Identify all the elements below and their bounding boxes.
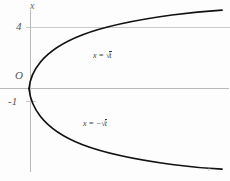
plot-canvas: [0, 0, 230, 181]
radical-sign-upper: √t: [106, 51, 112, 60]
curve-label-upper-prefix: x =: [93, 51, 106, 60]
curve-lower-branch: [29, 89, 222, 170]
radicand-lower: t: [105, 119, 107, 128]
radical-sign-lower: √t: [101, 119, 107, 128]
curve-label-upper: x = √t: [93, 51, 112, 60]
origin-label: O: [15, 70, 23, 81]
radicand-upper: t: [109, 51, 111, 60]
curve-label-lower-prefix: x = −: [83, 119, 101, 128]
curve-upper-branch: [29, 10, 222, 88]
parabola-figure: x t 4 -1 O x = √t x = −√t: [0, 0, 230, 181]
y-tick-label-4: 4: [16, 21, 22, 32]
vertical-axis-label: x: [30, 1, 34, 11]
horizontal-axis-label: t: [208, 166, 210, 173]
y-tick-label-negative-one: -1: [8, 96, 17, 107]
curve-label-lower: x = −√t: [83, 119, 107, 128]
